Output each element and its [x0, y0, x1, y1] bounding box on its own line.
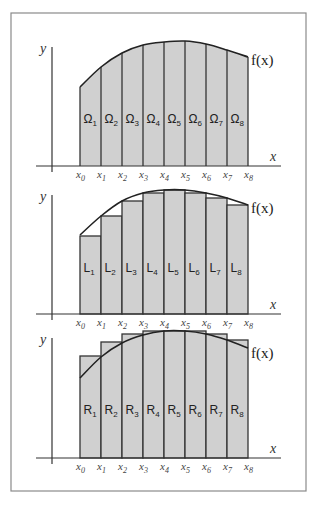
panels: yxf(x)x0x1x2x3x4x5x6x7x8Ω1Ω2Ω3Ω4Ω5Ω6Ω7Ω8…	[36, 41, 281, 475]
tick-label-x6: x6	[201, 168, 211, 183]
tick-label-x3: x3	[138, 316, 148, 331]
y-axis-label: y	[38, 332, 47, 347]
tick-label-x7: x7	[222, 168, 233, 183]
rectangle-L6	[185, 193, 206, 314]
tick-label-x5: x5	[180, 168, 190, 183]
function-label: f(x)	[251, 52, 274, 69]
x-axis-label: x	[269, 149, 277, 164]
y-axis-label: y	[38, 41, 47, 56]
tick-label-x0: x0	[75, 316, 85, 331]
tick-label-x8: x8	[243, 316, 253, 331]
tick-label-x1: x1	[96, 168, 106, 183]
tick-label-x5: x5	[180, 316, 190, 331]
tick-label-x4: x4	[159, 460, 169, 475]
panel-upper-sum: yxf(x)x0x1x2x3x4x5x6x7x8R1R2R3R4R5R6R7R8	[36, 331, 281, 475]
x-axis-label: x	[269, 441, 277, 456]
panel-exact-area: yxf(x)x0x1x2x3x4x5x6x7x8Ω1Ω2Ω3Ω4Ω5Ω6Ω7Ω8	[36, 41, 281, 183]
tick-label-x1: x1	[96, 460, 106, 475]
tick-label-x3: x3	[138, 460, 148, 475]
rectangle-R4	[143, 331, 164, 458]
rectangle-L7	[206, 198, 227, 314]
tick-label-x8: x8	[243, 168, 253, 183]
tick-label-x4: x4	[159, 168, 169, 183]
rectangle-R2	[101, 342, 122, 458]
rectangle-R5	[164, 331, 185, 458]
function-label: f(x)	[251, 200, 274, 217]
panel-lower-sum: yxf(x)x0x1x2x3x4x5x6x7x8L1L2L3L4L5L6L7L8	[36, 189, 281, 331]
rectangle-R3	[122, 334, 143, 458]
rectangle-R8	[227, 340, 248, 458]
rectangle-R6	[185, 331, 206, 458]
tick-label-x8: x8	[243, 460, 253, 475]
function-label: f(x)	[251, 345, 274, 362]
tick-label-x2: x2	[117, 316, 127, 331]
rectangle-L8	[227, 205, 248, 314]
rectangle-R7	[206, 334, 227, 458]
rectangle-L5	[164, 190, 185, 314]
tick-label-x3: x3	[138, 168, 148, 183]
tick-label-x0: x0	[75, 460, 85, 475]
riemann-sum-figure: yxf(x)x0x1x2x3x4x5x6x7x8Ω1Ω2Ω3Ω4Ω5Ω6Ω7Ω8…	[0, 0, 318, 505]
tick-label-x4: x4	[159, 316, 169, 331]
y-axis-label: y	[38, 189, 47, 204]
tick-label-x0: x0	[75, 168, 85, 183]
rectangle-L4	[143, 193, 164, 314]
x-axis-label: x	[269, 297, 277, 312]
tick-label-x2: x2	[117, 460, 127, 475]
rectangle-L3	[122, 201, 143, 314]
tick-label-x5: x5	[180, 460, 190, 475]
tick-label-x1: x1	[96, 316, 106, 331]
tick-label-x6: x6	[201, 460, 211, 475]
tick-label-x7: x7	[222, 316, 233, 331]
tick-label-x2: x2	[117, 168, 127, 183]
tick-label-x7: x7	[222, 460, 233, 475]
tick-label-x6: x6	[201, 316, 211, 331]
